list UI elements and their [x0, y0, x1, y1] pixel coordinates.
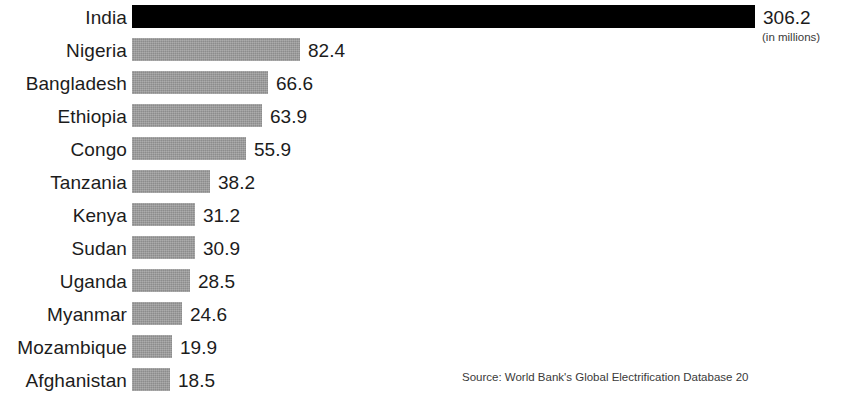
value-label: 82.4: [308, 40, 345, 59]
value-label: 66.6: [276, 73, 313, 92]
bar: [132, 71, 268, 94]
category-label: Mozambique: [17, 337, 127, 356]
category-label: Uganda: [60, 271, 127, 290]
bar: [132, 335, 172, 358]
bar: [132, 137, 246, 160]
units-annotation: (in millions): [762, 32, 820, 44]
category-label: India: [85, 7, 127, 26]
chart-row: Ethiopia63.9: [0, 104, 844, 127]
value-label: 55.9: [254, 139, 291, 158]
value-label: 28.5: [198, 271, 235, 290]
chart-row: Congo55.9: [0, 137, 844, 160]
source-annotation: Source: World Bank's Global Electrificat…: [462, 372, 748, 384]
value-label: 38.2: [218, 172, 255, 191]
bar: [132, 302, 182, 325]
category-label: Nigeria: [66, 40, 127, 59]
bar: [132, 104, 262, 127]
value-label: 31.2: [203, 205, 240, 224]
value-label: 30.9: [203, 238, 240, 257]
chart-row: Uganda28.5: [0, 269, 844, 292]
chart-row: Bangladesh66.6: [0, 71, 844, 94]
bar: [132, 170, 210, 193]
category-label: Bangladesh: [26, 73, 127, 92]
value-label: 19.9: [180, 337, 217, 356]
chart-row: Tanzania38.2: [0, 170, 844, 193]
value-label: 63.9: [270, 106, 307, 125]
bar: [132, 269, 190, 292]
category-label: Ethiopia: [58, 106, 127, 125]
bar: [132, 236, 195, 259]
chart-row: Mozambique19.9: [0, 335, 844, 358]
bar-chart: India306.2Nigeria82.4Bangladesh66.6Ethio…: [0, 0, 844, 398]
category-label: Kenya: [73, 205, 127, 224]
chart-row: Nigeria82.4: [0, 38, 844, 61]
chart-row: Myanmar24.6: [0, 302, 844, 325]
chart-row: India306.2: [0, 5, 844, 28]
bar: [132, 5, 755, 28]
chart-row: Kenya31.2: [0, 203, 844, 226]
category-label: Congo: [71, 139, 128, 158]
category-label: Myanmar: [47, 304, 127, 323]
category-label: Sudan: [72, 238, 127, 257]
value-label: 18.5: [178, 370, 215, 389]
bar: [132, 38, 300, 61]
bar: [132, 368, 170, 391]
chart-row: Sudan30.9: [0, 236, 844, 259]
value-label: 24.6: [190, 304, 227, 323]
category-label: Tanzania: [50, 172, 127, 191]
value-label: 306.2: [763, 7, 811, 26]
category-label: Afghanistan: [26, 370, 127, 389]
bar: [132, 203, 195, 226]
